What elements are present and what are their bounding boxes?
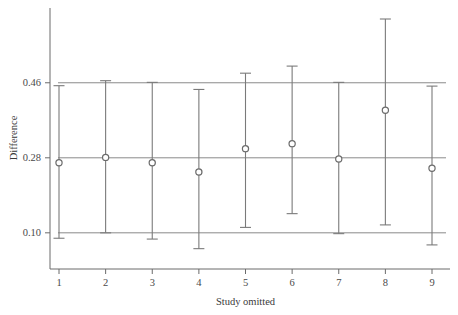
y-axis-tick-label: 0.10 xyxy=(23,227,41,238)
x-axis-tick-label: 1 xyxy=(56,277,61,288)
chart-canvas: 0.100.280.46 123456789 Difference Study … xyxy=(0,0,458,315)
x-axis-title: Study omitted xyxy=(216,296,276,307)
error-bar xyxy=(380,19,391,225)
data-point-marker xyxy=(196,169,202,175)
influence-plot-container: 0.100.280.46 123456789 Difference Study … xyxy=(0,0,458,315)
x-axis-tick-label: 4 xyxy=(196,277,202,288)
x-axis-tick-label: 7 xyxy=(336,277,341,288)
data-point-marker xyxy=(382,107,388,113)
reference-lines-group xyxy=(58,83,446,233)
data-point-marker xyxy=(429,165,435,171)
data-point-marker xyxy=(289,141,295,147)
error-bars-group xyxy=(54,19,438,249)
error-bar xyxy=(287,66,298,214)
data-point-marker xyxy=(336,156,342,162)
x-axis-tick-label: 5 xyxy=(243,277,248,288)
x-axis-tick-label: 8 xyxy=(383,277,388,288)
data-point-marker xyxy=(103,154,109,160)
x-axis-tick-label: 2 xyxy=(103,277,108,288)
x-axis-tick-label: 3 xyxy=(150,277,155,288)
data-point-marker xyxy=(242,146,248,152)
x-axis-ticks-group: 123456789 xyxy=(56,269,434,288)
y-axis-tick-label: 0.46 xyxy=(23,77,41,88)
y-axis-title: Difference xyxy=(8,115,19,160)
x-axis-tick-label: 6 xyxy=(290,277,295,288)
y-axis-ticks-group: 0.100.280.46 xyxy=(23,77,50,238)
y-axis-tick-label: 0.28 xyxy=(23,152,41,163)
x-axis-tick-label: 9 xyxy=(429,277,434,288)
data-point-marker xyxy=(149,160,155,166)
axes-group xyxy=(50,8,450,269)
data-point-marker xyxy=(56,160,62,166)
